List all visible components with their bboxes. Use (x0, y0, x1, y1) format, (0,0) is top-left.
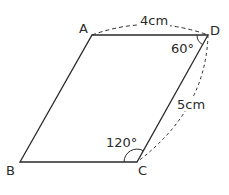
angle-label-c: 120° (106, 136, 137, 149)
vertex-label-a: A (79, 22, 88, 35)
angle-label-d: 60° (171, 42, 194, 55)
vertex-label-c: C (138, 164, 147, 177)
vertex-label-d: D (210, 24, 220, 37)
length-label-ad: 4cm (138, 14, 170, 27)
vertex-label-b: B (6, 164, 15, 177)
angle-arc-d (197, 35, 203, 45)
length-label-dc: 5cm (177, 98, 205, 111)
